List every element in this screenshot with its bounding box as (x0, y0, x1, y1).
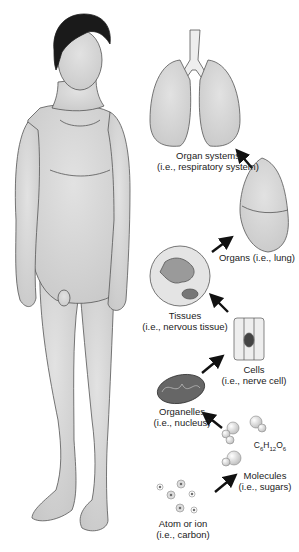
human-figure-icon (15, 14, 130, 531)
respiratory-system-icon (150, 30, 240, 146)
level-example: (i.e., respiratory system) (143, 161, 273, 172)
nerve-cell-icon (234, 318, 264, 360)
level-title: Atom or ion (148, 518, 218, 529)
organization-diagram: Organ systems (i.e., respiratory system)… (0, 0, 299, 552)
label-organ-systems: Organ systems (i.e., respiratory system) (143, 150, 273, 172)
atom-icon (157, 480, 197, 513)
level-title: Molecules (230, 470, 299, 481)
chemical-formula: C6H12O6 (254, 440, 286, 450)
nervous-tissue-icon (150, 246, 210, 306)
level-title: Cells (214, 364, 294, 375)
level-title: Organelles (142, 406, 222, 417)
level-title: Organ systems (143, 150, 273, 161)
arrow-tissue-to-organ-icon (212, 240, 228, 252)
label-organelles: Organelles (i.e., nucleus) (142, 406, 222, 428)
organelle-icon (155, 370, 208, 407)
level-title: Tissues (140, 310, 230, 321)
level-example: (i.e., carbon) (148, 529, 218, 540)
level-example: (i.e., nerve cell) (214, 375, 294, 386)
lung-organ-icon (240, 158, 288, 252)
level-example: (i.e., nucleus) (142, 417, 222, 428)
level-title: Organs (i.e., lung) (215, 252, 299, 263)
level-example: (i.e., sugars) (230, 481, 299, 492)
level-example: (i.e., nervous tissue) (140, 321, 230, 332)
label-cells: Cells (i.e., nerve cell) (214, 364, 294, 386)
label-organs: Organs (i.e., lung) (215, 252, 299, 263)
label-molecules: Molecules (i.e., sugars) (230, 470, 299, 492)
label-atom: Atom or ion (i.e., carbon) (148, 518, 218, 540)
label-tissues: Tissues (i.e., nervous tissue) (140, 310, 230, 332)
label-formula: C6H12O6 (244, 440, 296, 455)
